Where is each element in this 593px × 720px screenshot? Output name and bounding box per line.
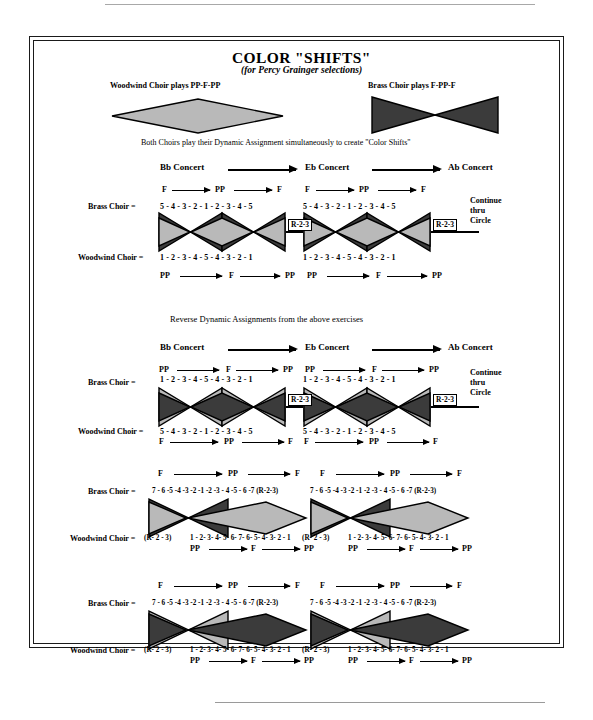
ex4-brass-dyn-arrow-1 — [174, 586, 222, 587]
ex2-brass-series-2: 1 - 2 - 3 - 4 - 5 - 4 - 3 - 2 - 1 — [303, 376, 396, 384]
ex1-brass-label: Brass Choir = — [88, 203, 136, 211]
ex4-wood-dyn-arrow-1 — [209, 661, 247, 662]
ex2-shapes-right — [303, 387, 431, 427]
ex2-brass-label: Brass Choir = — [88, 379, 136, 387]
woodwind-legend-diamond — [110, 96, 285, 134]
ex4-brass-label: Brass Choir = — [88, 600, 136, 608]
ex4-wood-dyn-arrow-2 — [262, 661, 300, 662]
ex3-wood-dyn-arrow-3 — [367, 549, 405, 550]
ex1-wood-dyn-6: PP — [432, 272, 442, 280]
ex4-woodwind-series-1: 1 - 2- 3- 4- 5- 6- 7- 6- 5- 4- 3- 2 - 1 — [190, 647, 291, 654]
ex2-brass-dyn-arrow-2 — [236, 370, 278, 371]
ex3-shapes-left — [148, 498, 308, 538]
ex4-brass-dyn-6: F — [457, 582, 462, 590]
ex4-brass-dyn-1: F — [158, 582, 163, 590]
ex1-shapes-right — [303, 212, 431, 252]
ex3-brass-dyn-4: F — [320, 470, 325, 478]
ex3-wood-dyn-arrow-2 — [262, 549, 300, 550]
ex3-brass-dyn-3: F — [295, 470, 300, 478]
ex4-brass-dyn-2: PP — [228, 582, 238, 590]
ex4-wood-dyn-arrow-3 — [367, 661, 405, 662]
ex3-wood-dyn-arrow-1 — [209, 549, 247, 550]
ex3-shapes-right — [310, 498, 470, 538]
ex1-wood-dyn-arrow-3 — [327, 276, 369, 277]
ex3-woodwind-series-2: 1 - 2- 3- 4- 5- 6- 7- 6- 5- 4- 3- 2 - 1 — [348, 535, 449, 542]
ex3-brass-series-2: 7 - 6 -5 -4 -3 -2 -1 -2 -3 - 4 -5 - 6 -7… — [310, 488, 436, 495]
ex3-brass-dyn-arrow-3 — [336, 474, 384, 475]
ex1-r23-tag-1: R-2-3 — [288, 219, 312, 231]
ex2-woodwind-series-2: 5 - 4 - 3 - 2 - 1 - 2 - 3 - 4 - 5 — [303, 428, 396, 436]
ex4-shapes-right — [310, 610, 470, 650]
ex2-brass-dyn-3: PP — [283, 366, 293, 374]
ex4-brass-dyn-arrow-3 — [336, 586, 384, 587]
ex1-key-bb: Bb Concert — [160, 163, 204, 172]
ex3-woodwind-label: Woodwind Choir = — [70, 535, 135, 543]
ex2-wood-dyn-5: PP — [369, 438, 379, 446]
ex2-key-ab: Ab Concert — [448, 343, 493, 352]
ex2-brass-series-1: 1 - 2 - 3 - 4 - 5 - 4 - 3 - 2 - 1 — [160, 376, 253, 384]
ex3-wood-prefix-2: (R- 2 - 3) — [302, 535, 329, 542]
ex2-woodwind-label: Woodwind Choir = — [78, 428, 143, 436]
ex1-wood-dyn-arrow-4 — [387, 276, 427, 277]
ex1-shapes-left — [158, 212, 286, 252]
ex1-brass-dyn-arrow-1 — [172, 190, 210, 191]
ex1-wood-dyn-4: PP — [307, 272, 317, 280]
ex1-wood-dyn-3: PP — [285, 272, 295, 280]
ex2-r23-tag-2: R-2-3 — [433, 394, 457, 406]
ex1-connector-2 — [431, 231, 479, 233]
ex1-continue-note: Continue thru Circle — [470, 196, 502, 227]
ex3-wood-dyn-arrow-4 — [420, 549, 458, 550]
ex4-brass-dyn-arrow-2 — [248, 586, 290, 587]
ex4-brass-dyn-3: F — [295, 582, 300, 590]
ex1-key-eb: Eb Concert — [305, 163, 349, 172]
ex3-wood-dyn-4: PP — [348, 545, 358, 553]
ex2-shapes-left — [158, 387, 286, 427]
ex2-brass-dyn-arrow-4 — [382, 370, 424, 371]
ex4-wood-dyn-5: F — [409, 657, 414, 665]
ex1-brass-dyn-2: PP — [215, 186, 225, 194]
ex1-key-arrow-2 — [372, 169, 440, 171]
ex3-wood-dyn-1: PP — [190, 545, 200, 553]
ex4-wood-dyn-1: PP — [190, 657, 200, 665]
ex1-wood-dyn-1: PP — [160, 272, 170, 280]
ex3-wood-prefix-1: (R- 2 - 3) — [144, 535, 171, 542]
diagram-canvas: COLOR "SHIFTS" (for Percy Grainger selec… — [0, 0, 593, 720]
ex2-brass-dyn-5: F — [372, 366, 377, 374]
page-subtitle: (for Percy Grainger selections) — [241, 66, 362, 76]
ex2-key-eb: Eb Concert — [305, 343, 349, 352]
ex3-brass-dyn-arrow-1 — [174, 474, 222, 475]
ex4-wood-dyn-arrow-4 — [420, 661, 458, 662]
ex4-brass-dyn-arrow-4 — [410, 586, 452, 587]
ex2-brass-dyn-6: PP — [429, 366, 439, 374]
ex4-woodwind-label: Woodwind Choir = — [70, 647, 135, 655]
brass-legend-caption: Brass Choir plays F-PP-F — [368, 82, 456, 90]
ex4-wood-dyn-3: PP — [304, 657, 314, 665]
ex1-r23-tag-2: R-2-3 — [433, 219, 457, 231]
ex4-wood-prefix-1: (R- 2 - 3) — [144, 647, 171, 654]
ex2-connector-1 — [286, 406, 303, 408]
ex4-brass-dyn-5: PP — [390, 582, 400, 590]
ex2-key-arrow-1 — [228, 349, 296, 351]
ex1-wood-dyn-2: F — [229, 272, 234, 280]
ex2-r23-tag-1: R-2-3 — [288, 394, 312, 406]
ex2-wood-dyn-6: F — [433, 438, 438, 446]
both-choirs-caption: Both Choirs play their Dynamic Assignmen… — [141, 139, 411, 147]
ex3-brass-dyn-arrow-4 — [410, 474, 452, 475]
ex3-brass-dyn-6: F — [457, 470, 462, 478]
ex2-wood-dyn-arrow-4 — [387, 442, 429, 443]
ex1-woodwind-series-2: 1 - 2 - 3 - 4 - 5 - 4 - 3 - 2 - 1 — [303, 254, 396, 262]
ex1-brass-dyn-3: F — [277, 186, 282, 194]
ex4-brass-series-2: 7 - 6 -5 -4 -3 -2 -1 -2 -3 - 4 -5 - 6 -7… — [310, 600, 436, 607]
ex1-brass-dyn-arrow-4 — [378, 190, 416, 191]
ex4-wood-dyn-4: PP — [348, 657, 358, 665]
ex1-brass-dyn-6: F — [421, 186, 426, 194]
ex2-woodwind-series-1: 5 - 4 - 3 - 2 - 1 - 2 - 3 - 4 - 5 — [160, 428, 253, 436]
ex3-wood-dyn-5: F — [409, 545, 414, 553]
ex2-wood-dyn-3: F — [288, 438, 293, 446]
ex2-brass-dyn-arrow-1 — [177, 370, 219, 371]
ex1-woodwind-label: Woodwind Choir = — [78, 254, 143, 262]
ex1-brass-dyn-arrow-3 — [316, 190, 354, 191]
ex1-brass-series-1: 5 - 4 - 3 - 2 - 1 - 2 - 3 - 4 - 5 — [160, 203, 253, 211]
ex3-woodwind-series-1: 1 - 2- 3- 4- 5- 6- 7- 6- 5- 4- 3- 2 - 1 — [190, 535, 291, 542]
ex2-wood-dyn-arrow-3 — [315, 442, 363, 443]
